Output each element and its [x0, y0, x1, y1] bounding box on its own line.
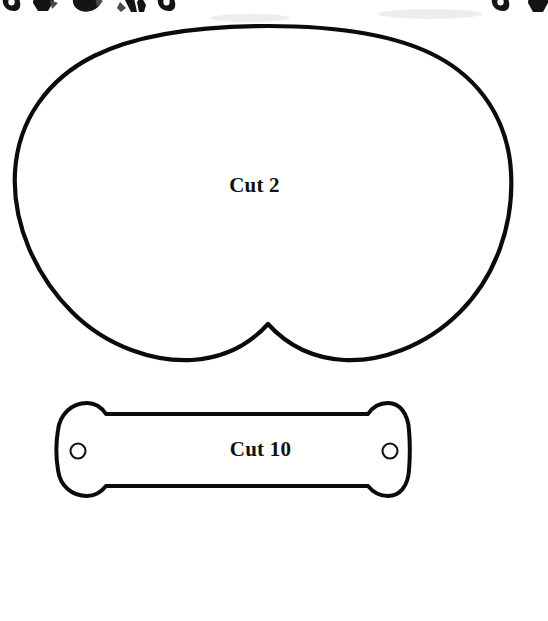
cut2-label-text: Cut 2 [229, 173, 280, 198]
scrap-blob-6-icon [492, 0, 510, 11]
scrap-blob-2-icon [33, 0, 58, 11]
scrap-blob-3-icon [73, 0, 103, 12]
scrap-blob-1-icon [3, 0, 21, 11]
pattern-template-page: Cut 2 Cut 10 [0, 0, 548, 621]
cut2-label: Cut 2 [0, 173, 548, 198]
scrap-blob-4-icon [117, 0, 146, 12]
pattern-drawing-canvas [0, 0, 548, 621]
scrap-blob-7-icon [528, 0, 548, 12]
scrap-blob-5-icon [158, 0, 176, 11]
cut10-label-text: Cut 10 [230, 437, 291, 462]
cut10-label: Cut 10 [0, 437, 548, 462]
top-clipart-scraps [3, 0, 548, 12]
